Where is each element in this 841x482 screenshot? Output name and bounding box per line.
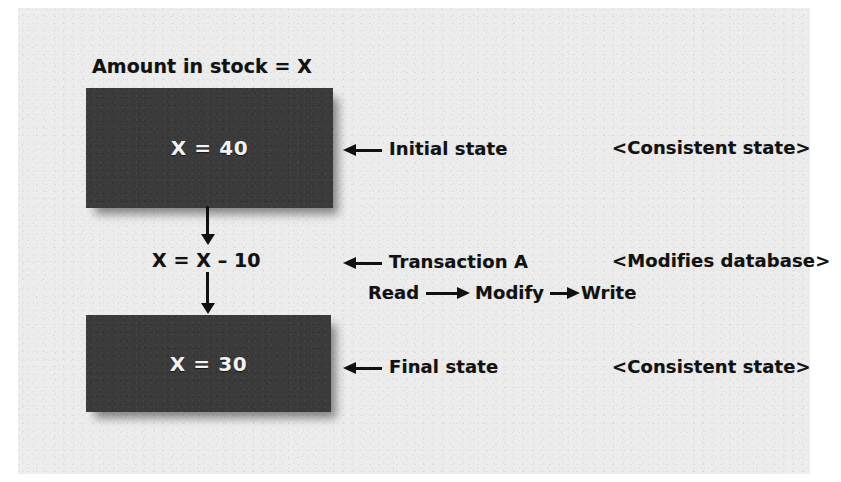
transaction-label: Transaction A xyxy=(389,251,528,272)
down-arrow-to-expression-icon xyxy=(197,206,219,246)
transaction-arrow-icon xyxy=(343,256,383,272)
transaction-note: <Modifies database> xyxy=(612,250,830,271)
down-arrow-to-final-state-icon xyxy=(197,272,219,318)
initial-state-note: <Consistent state> xyxy=(612,137,811,158)
arrow-shaft xyxy=(206,272,209,305)
step-read: Read xyxy=(368,282,419,303)
right-arrow-icon xyxy=(550,287,580,299)
arrow-shaft xyxy=(354,149,382,152)
arrowhead xyxy=(567,287,580,299)
read-modify-write-sequence: Read Modify Write xyxy=(368,282,636,303)
step-write: Write xyxy=(581,282,636,303)
arrow-shaft xyxy=(426,292,459,295)
final-state-note: <Consistent state> xyxy=(612,356,811,377)
final-state-arrow-icon xyxy=(343,361,383,377)
initial-state-label: Initial state xyxy=(389,138,508,159)
arrowhead xyxy=(201,234,215,245)
final-state-label: Final state xyxy=(389,356,498,377)
stock-heading: Amount in stock = X xyxy=(92,55,312,77)
final-state-value: X = 30 xyxy=(170,352,248,376)
right-arrow-icon xyxy=(426,287,470,299)
step-modify: Modify xyxy=(475,282,544,303)
initial-state-box: X = 40 xyxy=(86,88,333,208)
final-state-box: X = 30 xyxy=(86,315,331,412)
transaction-expression: X = X – 10 xyxy=(152,249,261,271)
initial-state-arrow-icon xyxy=(343,143,383,159)
arrow-shaft xyxy=(206,206,209,236)
initial-state-value: X = 40 xyxy=(171,136,249,160)
arrow-shaft xyxy=(354,262,382,265)
arrowhead xyxy=(457,287,470,299)
transaction-state-diagram: Amount in stock = X X = 40 Initial state… xyxy=(0,0,841,482)
arrow-shaft xyxy=(354,367,382,370)
arrowhead xyxy=(201,303,215,314)
